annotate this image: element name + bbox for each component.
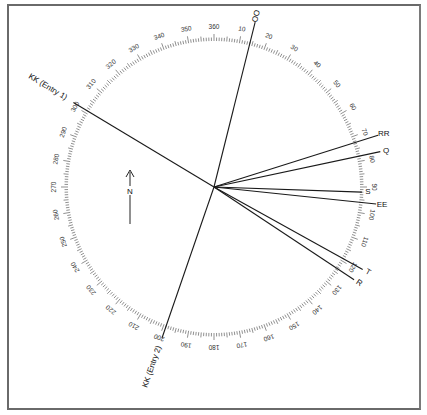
bearing-label-ee: EE	[377, 200, 388, 209]
degree-tick	[289, 312, 291, 315]
degree-tick	[338, 108, 341, 110]
degree-tick	[135, 311, 137, 314]
degree-tick	[269, 48, 270, 51]
degree-tick	[257, 44, 258, 47]
degree-label: 110	[360, 236, 370, 248]
bearing-label-s: S	[365, 187, 370, 196]
degree-tick	[68, 217, 71, 218]
degree-tick	[351, 237, 358, 239]
degree-tick	[346, 249, 351, 251]
degree-tick	[358, 160, 365, 161]
degree-tick	[66, 164, 69, 165]
degree-tick	[342, 115, 345, 117]
degree-tick	[191, 39, 192, 42]
degree-tick	[66, 210, 69, 211]
degree-tick	[63, 212, 70, 213]
degree-label: 140	[311, 304, 324, 317]
degree-tick	[185, 40, 186, 43]
degree-tick	[98, 93, 101, 95]
degree-label: 280	[51, 153, 60, 165]
degree-tick	[252, 41, 253, 46]
degree-label: 290	[58, 125, 68, 138]
degree-tick	[247, 329, 248, 332]
degree-tick	[285, 56, 287, 59]
degree-tick	[254, 327, 255, 330]
degree-tick	[82, 256, 85, 258]
degree-tick	[345, 251, 348, 253]
bearing-label-t: T	[364, 267, 373, 277]
degree-tick	[266, 323, 267, 326]
degree-tick	[254, 43, 255, 46]
degree-tick	[273, 50, 274, 53]
degree-tick	[67, 215, 70, 216]
degree-label: 170	[236, 341, 248, 350]
degree-tick	[74, 133, 77, 134]
degree-tick	[133, 309, 135, 312]
degree-tick	[344, 253, 347, 255]
degree-label: 240	[69, 261, 81, 274]
degree-tick	[289, 59, 291, 62]
degree-tick	[358, 164, 361, 165]
degree-tick	[87, 264, 90, 266]
degree-tick	[168, 326, 169, 329]
degree-label: 330	[127, 42, 140, 54]
degree-tick	[357, 217, 360, 218]
degree-tick	[142, 56, 144, 59]
degree-tick	[153, 320, 154, 323]
north-arrow: N	[126, 170, 134, 224]
degree-tick	[90, 271, 94, 274]
degree-tick	[76, 129, 79, 130]
degree-tick	[95, 97, 98, 99]
degree-tick	[354, 227, 357, 228]
degree-tick	[130, 63, 132, 66]
degree-tick	[90, 103, 93, 105]
degree-tick	[153, 50, 154, 53]
degree-tick	[69, 222, 72, 223]
degree-tick	[321, 287, 324, 289]
bearing-line-rr	[214, 135, 378, 187]
degree-tick	[69, 151, 72, 152]
degree-tick	[173, 43, 174, 46]
degree-tick	[126, 305, 128, 308]
degree-tick	[168, 45, 169, 48]
degree-tick	[77, 126, 80, 127]
degree-tick	[357, 215, 360, 216]
degree-tick	[291, 60, 293, 63]
degree-tick	[300, 305, 302, 308]
degree-tick	[294, 309, 296, 312]
degree-tick	[352, 138, 355, 139]
degree-tick	[351, 135, 358, 137]
degree-tick	[317, 80, 321, 84]
degree-tick	[323, 87, 326, 89]
degree-tick	[87, 108, 90, 110]
degree-tick	[68, 225, 73, 226]
bearing-line-kk2	[162, 187, 214, 338]
degree-tick	[302, 68, 304, 71]
degree-tick	[302, 304, 304, 307]
degree-tick	[72, 232, 75, 233]
degree-tick	[287, 55, 291, 61]
degree-tick	[89, 106, 92, 108]
degree-tick	[75, 131, 78, 132]
degree-tick	[105, 85, 108, 87]
degree-tick	[349, 242, 352, 243]
degree-tick	[319, 83, 322, 85]
degree-tick	[130, 308, 132, 311]
degree-tick	[327, 93, 330, 95]
degree-tick	[339, 110, 342, 112]
degree-tick	[356, 220, 359, 221]
degree-tick	[75, 242, 78, 243]
bearing-label-r: R	[354, 277, 364, 288]
degree-tick	[345, 121, 348, 123]
degree-tick	[247, 41, 248, 44]
degree-tick	[110, 292, 112, 295]
degree-label: 190	[180, 341, 192, 350]
degree-tick	[114, 76, 116, 79]
degree-tick	[239, 331, 240, 338]
degree-label: 120	[347, 261, 359, 274]
degree-label: 10	[238, 25, 247, 33]
degree-label: 130	[331, 284, 344, 297]
degree-tick	[356, 153, 359, 154]
degree-tick	[304, 69, 306, 72]
degree-tick	[296, 308, 298, 311]
